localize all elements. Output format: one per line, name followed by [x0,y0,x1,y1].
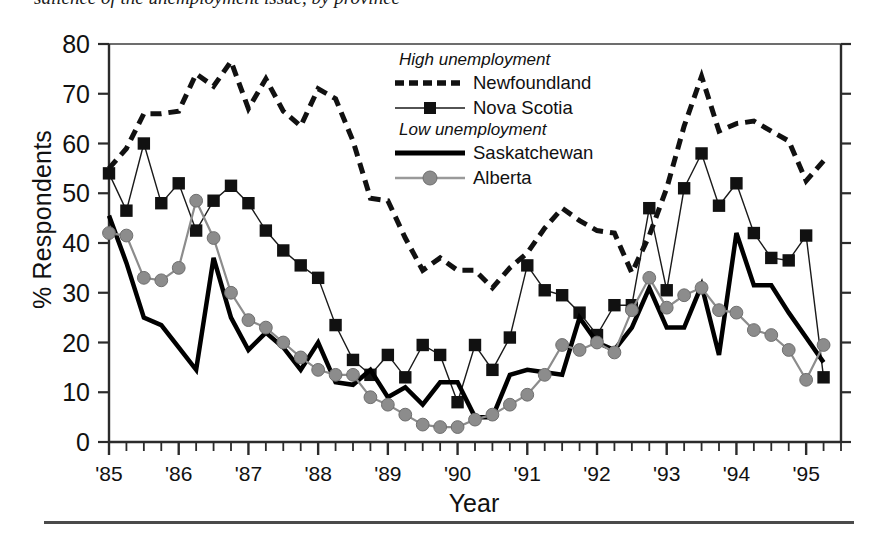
series-marker-circle [172,261,185,274]
x-axis-title: Year [108,489,840,518]
series-marker-circle [155,274,168,287]
x-tick-label: '92 [583,462,610,485]
series-marker-circle [713,304,726,317]
chart-legend: High unemployment Newfoundland Nova Scot… [393,50,653,190]
series-marker-circle [242,314,255,327]
x-tick-label: '91 [514,462,541,485]
series-marker-circle [416,418,429,431]
series-marker-circle [207,232,220,245]
series-marker-square [103,167,115,179]
series-marker-circle [451,421,464,434]
series-marker-square [800,229,812,241]
series-marker-circle [538,368,551,381]
series-marker-square [434,349,446,361]
series-marker-circle [503,398,516,411]
series-marker-square [382,349,394,361]
series-marker-square [504,331,516,343]
x-tick-label: '85 [95,462,122,485]
series-marker-circle [800,373,813,386]
series-marker-square [643,202,655,214]
x-tick-label: '88 [304,462,331,485]
series-marker-square [695,147,707,159]
y-tick-label: 30 [62,279,90,307]
series-marker-square [765,252,777,264]
series-marker-square [730,177,742,189]
series-marker-circle [434,421,447,434]
series-marker-circle [329,368,342,381]
legend-label-alberta: Alberta [467,167,532,189]
series-marker-circle [486,408,499,421]
series-marker-square [661,284,673,296]
legend-swatch-nova-scotia [393,97,467,119]
series-marker-circle [399,408,412,421]
series-marker-square [190,224,202,236]
series-marker-square [225,180,237,192]
series-marker-square [783,254,795,266]
series-marker-circle [521,388,534,401]
y-axis-title: % Respondents [28,100,57,340]
footer-divider [44,521,854,524]
series-marker-circle [103,227,116,240]
series-marker-square [312,272,324,284]
legend-label-saskatchewan: Saskatchewan [467,142,593,164]
y-tick-label: 60 [62,130,90,158]
legend-group-low-label: Low unemployment [399,120,653,139]
series-marker-square [521,259,533,271]
series-marker-circle [259,321,272,334]
series-marker-square [556,289,568,301]
series-marker-circle [625,304,638,317]
series-marker-circle [643,271,656,284]
series-marker-circle [660,301,673,314]
series-marker-square [399,371,411,383]
legend-item-alberta[interactable]: Alberta [393,165,653,190]
series-marker-square [539,284,551,296]
legend-item-nova-scotia[interactable]: Nova Scotia [393,95,653,120]
series-marker-circle [782,344,795,357]
x-tick-label: '90 [444,462,471,485]
series-marker-square [417,339,429,351]
series-marker-circle [556,339,569,352]
series-marker-square [451,396,463,408]
legend-swatch-newfoundland [393,72,467,94]
y-tick-label: 40 [62,229,90,257]
series-marker-circle [608,346,621,359]
x-tick-label: '86 [165,462,192,485]
series-marker-circle [294,351,307,364]
series-marker-square [207,195,219,207]
legend-item-newfoundland[interactable]: Newfoundland [393,70,653,95]
x-tick-label: '89 [374,462,401,485]
series-marker-circle [120,229,133,242]
y-tick-label: 10 [62,378,90,406]
series-marker-circle [730,306,743,319]
series-marker-circle [591,336,604,349]
legend-label-newfoundland: Newfoundland [467,72,591,94]
series-marker-circle [765,329,778,342]
series-marker-square [120,204,132,216]
series-marker-square [486,364,498,376]
series-marker-square [469,339,481,351]
legend-item-saskatchewan[interactable]: Saskatchewan [393,140,653,165]
x-tick-label: '87 [235,462,262,485]
legend-swatch-alberta [393,167,467,189]
series-marker-circle [678,289,691,302]
series-marker-square [329,319,341,331]
x-tick-label: '95 [792,462,819,485]
y-tick-label: 0 [76,428,90,456]
series-marker-circle [364,391,377,404]
series-marker-square [173,177,185,189]
series-marker-circle [469,413,482,426]
series-marker-square [260,224,272,236]
series-marker-square [138,137,150,149]
legend-group-high-label: High unemployment [399,50,653,69]
series-marker-square [295,259,307,271]
series-marker-circle [747,324,760,337]
series-marker-square [678,182,690,194]
series-marker-circle [381,398,394,411]
series-marker-square [277,244,289,256]
series-marker-circle [573,344,586,357]
series-marker-circle [190,194,203,207]
series-marker-square [347,354,359,366]
series-marker-square [155,197,167,209]
series-marker-circle [347,368,360,381]
series-marker-square [748,227,760,239]
